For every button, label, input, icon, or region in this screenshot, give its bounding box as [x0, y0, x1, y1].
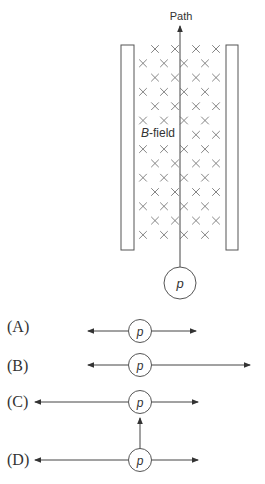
option-b[interactable]: (B) p	[7, 354, 250, 377]
option-d-label: (D)	[7, 451, 29, 469]
particle-label: p	[136, 359, 144, 373]
option-b-label: (B)	[7, 357, 28, 375]
particle-label: p	[136, 325, 144, 339]
option-c[interactable]: (C) p	[7, 391, 198, 451]
path-label: Path	[170, 10, 193, 22]
magnetic-field-figure: Path B-field p	[121, 10, 238, 299]
diagram-canvas: Path B-field p (A) p (B) p (C) p (D) p	[0, 0, 265, 484]
right-plate	[226, 45, 238, 250]
option-c-label: (C)	[7, 393, 28, 411]
option-a[interactable]: (A) p	[7, 318, 196, 343]
field-label: B-field	[141, 126, 175, 140]
option-a-label: (A)	[7, 318, 29, 336]
particle-label: p	[136, 396, 144, 410]
option-d[interactable]: (D) p	[7, 449, 198, 472]
particle-label: p	[136, 454, 144, 468]
left-plate	[121, 45, 134, 250]
particle-label: p	[175, 276, 183, 291]
